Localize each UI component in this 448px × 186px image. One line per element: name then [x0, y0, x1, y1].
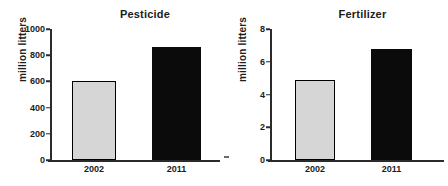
bar-pesticide-2002: 2002	[72, 81, 116, 160]
y-tick-mark	[46, 107, 50, 109]
x-tick-label-2011: 2011	[382, 164, 402, 174]
y-tick-label: 1000	[25, 25, 45, 34]
y-tick-label: 2	[260, 123, 265, 132]
panel-title-pesticide: Pesticide	[0, 8, 256, 20]
stray-tick-mark	[224, 156, 229, 158]
y-axis-line-pesticide	[50, 29, 52, 160]
plot-area-fertilizer: 8 6 4 2 0 2002 2011	[270, 29, 418, 160]
y-tick-label: 200	[30, 129, 45, 138]
y-tick-mark	[266, 127, 270, 129]
bar-fertilizer-2011: 2011	[371, 49, 412, 160]
y-tick-mark	[266, 61, 270, 63]
y-tick-mark	[46, 28, 50, 30]
y-tick-label: 600	[30, 77, 45, 86]
y-tick-label: 4	[260, 90, 265, 99]
y-tick-label: 0	[260, 156, 265, 165]
bar-pesticide-2011: 2011	[152, 47, 201, 160]
y-tick-label: 8	[260, 25, 265, 34]
y-tick-mark	[266, 159, 270, 161]
y-tick-mark	[266, 28, 270, 30]
y-tick-label: 6	[260, 57, 265, 66]
y-tick-label: 800	[30, 51, 45, 60]
chart-panel-pesticide: Pesticide million litters 1000 800 600 4…	[0, 0, 222, 186]
y-tick-mark	[266, 94, 270, 96]
y-tick-label: 0	[40, 156, 45, 165]
y-tick-mark	[46, 159, 50, 161]
panel-title-fertilizer: Fertilizer	[222, 8, 448, 20]
y-tick-mark	[46, 54, 50, 56]
y-axis-label-fertilizer: million litters	[237, 17, 248, 82]
x-axis-line-fertilizer	[268, 160, 444, 162]
x-tick-label-2002: 2002	[84, 164, 104, 174]
bar-fertilizer-2002: 2002	[295, 80, 335, 160]
x-tick-label-2011: 2011	[167, 164, 187, 174]
chart-panel-fertilizer: Fertilizer million litters 8 6 4 2 0 200…	[222, 0, 443, 186]
x-tick-label-2002: 2002	[305, 164, 325, 174]
y-tick-label: 400	[30, 103, 45, 112]
y-tick-mark	[46, 133, 50, 135]
y-tick-mark	[46, 81, 50, 83]
plot-area-pesticide: 1000 800 600 400 200 0 2002 2011	[50, 29, 218, 160]
y-axis-line-fertilizer	[270, 29, 272, 160]
x-axis-line-pesticide	[48, 160, 220, 162]
